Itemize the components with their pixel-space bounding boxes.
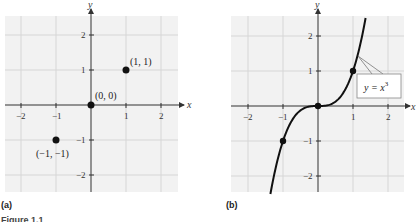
curve-label: y = x (363, 82, 385, 93)
y-axis-label: y (314, 0, 320, 10)
x-axis-label: x (410, 101, 416, 112)
x-tick: −2 (16, 111, 26, 121)
curve-point (280, 138, 286, 144)
point-label: (0, 0) (95, 90, 117, 102)
panel-a-plot: x y −2 −1 1 2 2 1 −1 −2 (1, 1) (0, 0) (−… (5, 0, 192, 192)
curve-point (350, 68, 356, 74)
y-tick: −1 (303, 136, 313, 146)
panel-label-b: (b) (226, 200, 238, 210)
x-tick: 2 (386, 112, 391, 122)
x-tick: −1 (278, 112, 288, 122)
panel-label-a: (a) (1, 200, 12, 210)
y-tick: 2 (308, 31, 313, 41)
y-tick: 1 (81, 65, 86, 75)
y-axis-label: y (87, 0, 93, 10)
data-point (123, 67, 130, 74)
curve-point (315, 103, 321, 109)
y-tick: −2 (76, 170, 86, 180)
y-tick: −1 (76, 135, 86, 145)
y-tick: 1 (308, 66, 313, 76)
x-tick: −1 (52, 111, 62, 121)
point-label: (1, 1) (130, 56, 152, 68)
y-tick: −2 (303, 171, 313, 181)
figure-canvas: x y −2 −1 1 2 2 1 −1 −2 (1, 1) (0, 0) (−… (0, 0, 416, 222)
x-tick: 1 (351, 112, 356, 122)
curve-exponent: 3 (385, 80, 389, 88)
panel-b-plot: x y −2 −1 1 2 2 1 −1 −2 y = x3 (231, 0, 416, 194)
point-label: (−1, −1) (36, 148, 69, 160)
x-tick: 1 (124, 111, 129, 121)
x-tick: 2 (159, 111, 164, 121)
x-tick: −2 (243, 112, 253, 122)
y-tick: 2 (81, 30, 86, 40)
x-axis-label: x (186, 99, 192, 110)
data-point (88, 102, 95, 109)
figure-caption: Figure 1.1 (1, 215, 44, 222)
data-point (53, 137, 60, 144)
